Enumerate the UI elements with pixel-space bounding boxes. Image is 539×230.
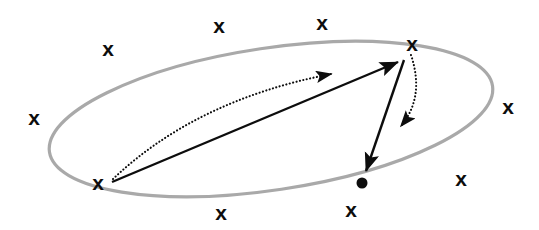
x-marker-top-mid-right: x <box>316 11 328 34</box>
solid-arrows-group <box>112 60 404 182</box>
solid-arrow-descending-to-dot <box>366 60 404 171</box>
x-marker-source-point: x <box>92 171 104 194</box>
x-marker-top-right: x <box>406 32 418 55</box>
dotted-arc-arrow-ascending <box>113 74 331 179</box>
x-marker-bottom-mid-left: x <box>215 201 227 224</box>
x-marker-right: x <box>502 95 514 118</box>
x-marker-bottom-right: x <box>455 167 467 190</box>
solid-arrow-main-ascending <box>112 62 398 182</box>
filled-dot-endpoint <box>357 178 368 189</box>
diagram-svg: xxxxxxxxxx <box>0 0 539 230</box>
diagram-canvas: xxxxxxxxxx <box>0 0 539 230</box>
x-marker-top-mid-left: x <box>213 14 225 37</box>
x-marker-top-left-outer: x <box>102 37 114 60</box>
x-marker-left: x <box>28 106 40 129</box>
x-marker-bottom-mid-right: x <box>345 198 357 221</box>
